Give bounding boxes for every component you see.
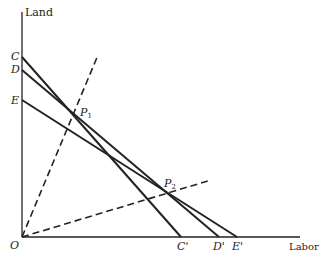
ray-2 [22,180,211,237]
diagram-lines [0,0,334,260]
y-axis-label: Land [25,7,53,18]
line-EE [22,100,237,237]
diagram-canvas: Land Labor O C D E C' D' E' P1 P2 [0,0,334,260]
label-D: D [11,64,20,75]
p1-subscript: 1 [87,112,91,120]
ray-1 [22,55,98,237]
label-E-prime: E' [232,241,243,252]
x-axis-label: Labor [289,242,319,252]
line-CC [22,57,181,237]
label-P2: P2 [164,178,176,191]
label-D-prime: D' [213,241,225,252]
label-C: C [11,51,19,62]
origin-label: O [10,240,19,251]
line-DD [22,70,219,237]
label-P1: P1 [80,107,92,120]
label-E: E [11,95,19,106]
p2-subscript: 2 [171,183,175,191]
label-C-prime: C' [177,241,188,252]
